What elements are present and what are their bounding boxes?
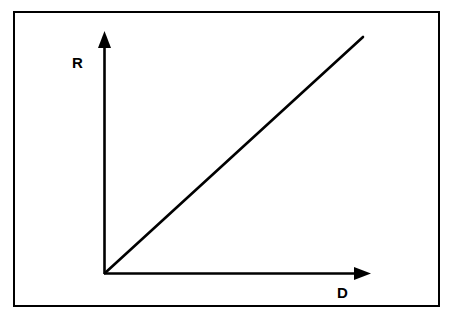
data-line-r-vs-d (105, 37, 363, 273)
diagram-canvas: R D (0, 0, 457, 318)
y-axis-label: R (72, 55, 83, 70)
plot-area (0, 0, 457, 318)
y-axis-arrowhead (98, 31, 111, 48)
x-axis-label: D (337, 285, 348, 300)
x-axis-arrowhead (354, 267, 371, 280)
